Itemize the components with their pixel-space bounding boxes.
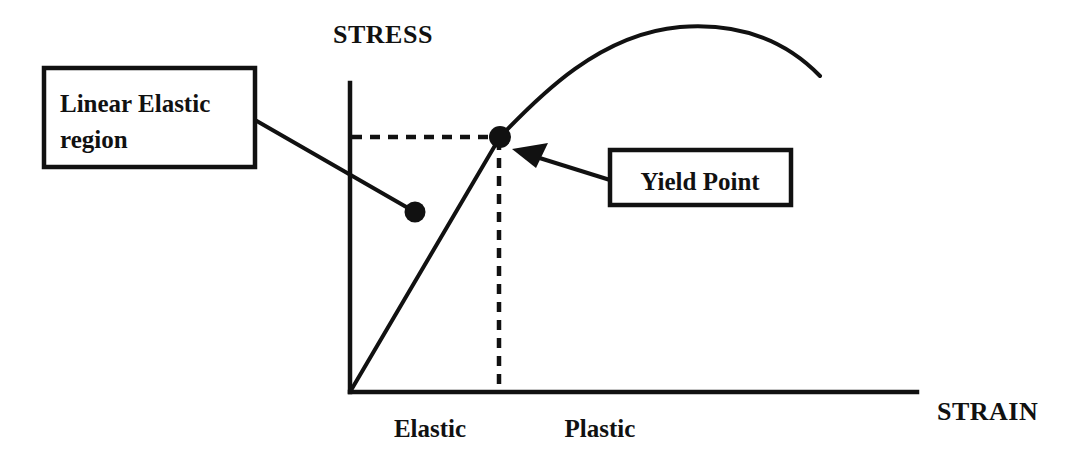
region-label-elastic: Elastic (394, 415, 466, 442)
region-label-plastic: Plastic (565, 415, 636, 442)
linear-elastic-callout-line-2: region (60, 126, 128, 153)
linear-elastic-leader-line (255, 120, 415, 212)
linear-elastic-marker-dot (405, 202, 426, 223)
x-axis-title: STRAIN (937, 397, 1038, 426)
yield-point-arrowhead (512, 143, 548, 168)
callout-linear-elastic: Linear Elastic region (44, 68, 426, 223)
yield-point-callout-label: Yield Point (640, 168, 760, 195)
plastic-curve-segment (500, 26, 820, 137)
y-axis-title: STRESS (333, 20, 433, 49)
elastic-line-segment (350, 137, 500, 392)
yield-point-leader-line (530, 155, 610, 180)
axes-group (350, 83, 917, 392)
callout-yield-point: Yield Point (489, 126, 791, 205)
linear-elastic-callout-line-1: Linear Elastic (60, 90, 210, 117)
yield-point-marker-dot (489, 126, 511, 148)
stress-strain-diagram: STRESS STRAIN Elastic Plastic Linear Ela… (0, 0, 1083, 459)
diagram-canvas: STRESS STRAIN Elastic Plastic Linear Ela… (0, 0, 1083, 459)
